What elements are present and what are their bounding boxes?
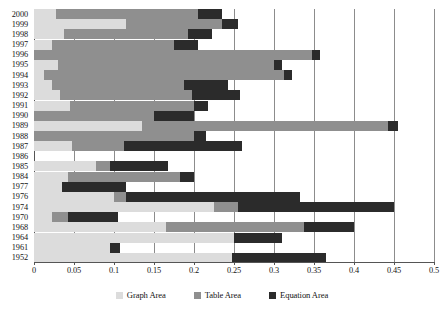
bar-segment-equation-area [62, 182, 126, 192]
bar-segment-table-area [64, 29, 189, 39]
bar-segment-table-area [52, 212, 68, 222]
y-tick-label: 1995 [12, 60, 28, 69]
x-tick-mark [434, 262, 435, 265]
x-tick-label: 0.3 [269, 266, 279, 276]
x-tick-label: 0.5 [429, 266, 439, 276]
bar-segment-table-area [126, 19, 222, 29]
bar-row [34, 90, 434, 100]
x-tick-mark [34, 262, 35, 265]
bar-row [34, 29, 434, 39]
bar-segment-table-area [72, 141, 125, 151]
bar-segment-table-area [34, 131, 194, 141]
y-tick-label: 1977 [12, 182, 28, 191]
bar-row [34, 40, 434, 50]
y-tick-label: 1992 [12, 91, 28, 100]
bar-segment-graph-area [34, 70, 44, 80]
x-tick-label: 0.35 [307, 266, 321, 276]
x-tick-mark [234, 262, 235, 265]
x-tick-mark [154, 262, 155, 265]
bar-segment-graph-area [34, 233, 234, 243]
x-tick-mark [314, 262, 315, 265]
bar-segment-equation-area [126, 192, 300, 202]
bar-segment-graph-area [34, 192, 114, 202]
bar-row [34, 9, 434, 19]
bar-segment-equation-area [388, 121, 398, 131]
y-tick-label: 1991 [12, 101, 28, 110]
y-tick-label: 1999 [12, 20, 28, 29]
bar-segment-graph-area [34, 222, 166, 232]
y-tick-label: 1989 [12, 121, 28, 130]
bar-segment-table-area [56, 9, 198, 19]
y-tick-label: 1993 [12, 81, 28, 90]
x-tick-mark [74, 262, 75, 265]
bar-segment-graph-area [34, 182, 62, 192]
x-tick-mark [194, 262, 195, 265]
bar-segment-equation-area [110, 161, 168, 171]
bar-row [34, 50, 434, 60]
y-axis-category-labels: 2000199919981997199619951994199319921991… [0, 9, 31, 263]
bar-segment-equation-area [188, 29, 211, 39]
bar-segment-graph-area [34, 29, 64, 39]
bar-row [34, 141, 434, 151]
y-tick-label: 1968 [12, 223, 28, 232]
bar-segment-equation-area [124, 141, 242, 151]
bar-segment-table-area [142, 121, 388, 131]
x-tick-mark [394, 262, 395, 265]
bar-row [34, 222, 434, 232]
bar-segment-equation-area [234, 233, 282, 243]
bar-segment-equation-area [68, 212, 118, 222]
bar-segment-table-area [96, 161, 110, 171]
x-tick-label: 0.1 [109, 266, 119, 276]
bar-segment-graph-area [34, 9, 56, 19]
bar-segment-equation-area [274, 60, 282, 70]
bar-segment-equation-area [284, 70, 291, 80]
plot-wrapper: 2000199919981997199619951994199319921991… [0, 0, 444, 272]
legend-item[interactable]: Equation Area [269, 290, 328, 300]
bar-segment-table-area [68, 172, 180, 182]
bar-segment-equation-area [192, 90, 240, 100]
bar-row [34, 212, 434, 222]
bar-segment-graph-area [34, 101, 70, 111]
y-tick-label: 1984 [12, 172, 28, 181]
bar-segment-graph-area [34, 243, 110, 253]
y-tick-label: 1964 [12, 233, 28, 242]
y-tick-label: 1961 [12, 243, 28, 252]
bar-segment-graph-area [34, 161, 96, 171]
bar-segment-equation-area [194, 101, 208, 111]
stacked-bar-chart: 2000199919981997199619951994199319921991… [0, 0, 444, 314]
legend-item[interactable]: Graph Area [116, 290, 166, 300]
y-tick-label: 1996 [12, 50, 28, 59]
legend-label: Graph Area [127, 290, 166, 300]
bar-row [34, 111, 434, 121]
bar-segment-equation-area [198, 9, 222, 19]
legend-label: Equation Area [280, 290, 328, 300]
y-tick-label: 1976 [12, 192, 28, 201]
bar-segment-equation-area [110, 243, 120, 253]
x-tick-label: 0.4 [349, 266, 359, 276]
bar-row [34, 202, 434, 212]
legend-item[interactable]: Table Area [194, 290, 241, 300]
bar-row [34, 172, 434, 182]
bar-segment-table-area [44, 70, 285, 80]
x-tick-label: 0 [32, 266, 36, 276]
x-tick-mark [114, 262, 115, 265]
y-tick-label: 1994 [12, 71, 28, 80]
bar-row [34, 182, 434, 192]
bar-row [34, 70, 434, 80]
bar-segment-equation-area [238, 202, 394, 212]
x-axis-ticks: 00.050.10.150.20.250.30.350.40.450.5 [0, 262, 444, 278]
x-tick-label: 0.45 [387, 266, 401, 276]
bar-segment-equation-area [312, 50, 320, 60]
x-tick-label: 0.25 [227, 266, 241, 276]
plot-area [34, 9, 434, 263]
bar-row [34, 101, 434, 111]
y-tick-label: 1987 [12, 142, 28, 151]
bar-row [34, 161, 434, 171]
y-tick-label: 1990 [12, 111, 28, 120]
bar-segment-graph-area [34, 60, 58, 70]
bar-segment-table-area [166, 222, 304, 232]
y-tick-label: 1985 [12, 162, 28, 171]
bar-segment-table-area [114, 192, 126, 202]
bar-row [34, 19, 434, 29]
x-tick-mark [354, 262, 355, 265]
